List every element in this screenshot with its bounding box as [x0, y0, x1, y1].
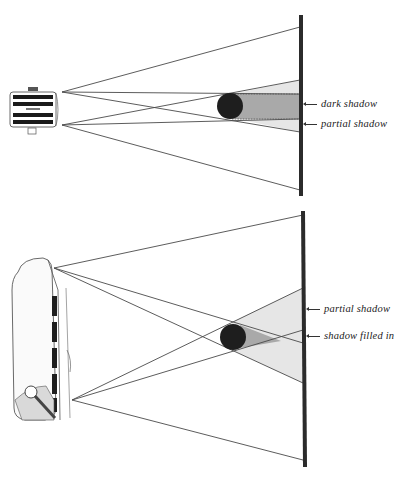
label-shadow-filled-in: shadow filled in	[308, 330, 394, 341]
arrow-left-icon	[308, 309, 320, 310]
arrow-left-icon	[308, 336, 320, 337]
arrow-left-icon	[305, 124, 317, 125]
label-partial-shadow-bottom: partial shadow	[308, 303, 390, 314]
top-sphere	[217, 93, 243, 119]
top-panel	[10, 15, 303, 196]
arrow-left-icon	[305, 104, 317, 105]
bottom-sphere	[220, 324, 246, 350]
shadow-diagram	[0, 0, 408, 482]
spotlight-icon	[10, 87, 58, 134]
bottom-panel	[12, 211, 307, 467]
softbox-icon	[12, 258, 71, 420]
label-partial-shadow-top: partial shadow	[305, 118, 387, 129]
label-dark-shadow: dark shadow	[305, 98, 377, 109]
